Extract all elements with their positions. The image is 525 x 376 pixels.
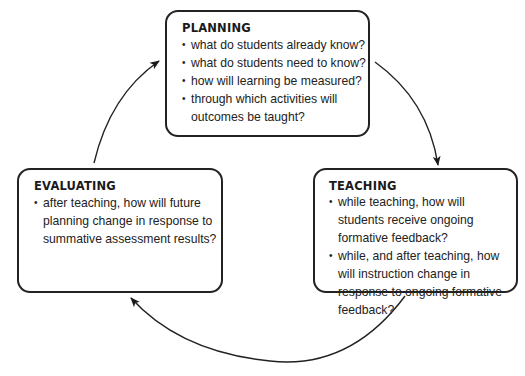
planning-bullet: how will learning be measured? <box>182 72 367 90</box>
evaluating-bullet: after teaching, how will future planning… <box>34 194 219 248</box>
evaluating-bullets: after teaching, how will future planning… <box>34 194 219 248</box>
planning-title: PLANNING <box>182 21 251 35</box>
teaching-box: TEACHING while teaching, how will studen… <box>313 168 518 293</box>
planning-bullet: through which activities will outcomes b… <box>182 90 341 126</box>
arrow-evaluating-to-planning <box>94 61 159 163</box>
teaching-bullets: while teaching, how will students receiv… <box>329 193 517 319</box>
teaching-bullet: while, and after teaching, how will inst… <box>329 247 517 319</box>
evaluating-box: EVALUATING after teaching, how will futu… <box>17 168 223 293</box>
teaching-bullet: while teaching, how will students receiv… <box>329 193 498 247</box>
planning-bullets: what do students already know? what do s… <box>182 36 367 126</box>
planning-bullet: what do students already know? <box>182 36 367 54</box>
arrow-planning-to-teaching <box>375 62 438 165</box>
teaching-title: TEACHING <box>329 179 397 193</box>
planning-box: PLANNING what do students already know? … <box>165 10 370 137</box>
evaluating-title: EVALUATING <box>34 179 116 193</box>
planning-bullet: what do students need to know? <box>182 54 367 72</box>
